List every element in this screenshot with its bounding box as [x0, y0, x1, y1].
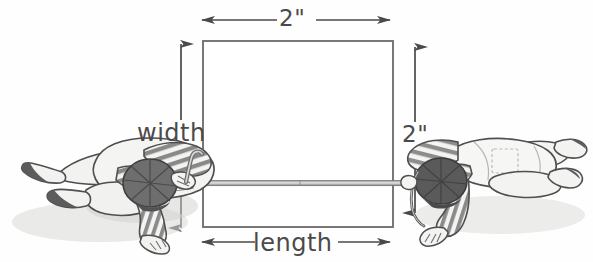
right-dimension-label: 2": [402, 121, 428, 147]
measuring-rope: [186, 181, 414, 186]
figure-canvas: 2" 2" width length: [0, 0, 593, 262]
top-dimension-label: 2": [279, 5, 305, 31]
diagram-artwork: [0, 0, 593, 262]
left-character: [12, 138, 214, 254]
length-label: length: [253, 229, 333, 257]
right-character-cap: [415, 158, 467, 209]
square-shape: [203, 41, 393, 227]
right-character: [401, 138, 587, 246]
width-label: width: [137, 119, 206, 147]
